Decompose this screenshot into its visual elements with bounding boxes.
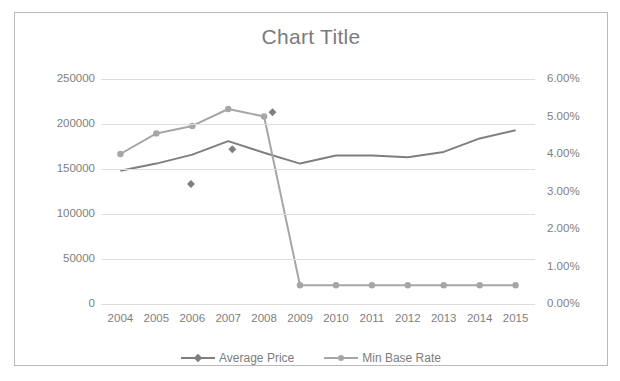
gridline — [101, 79, 535, 80]
x-axis-tick: 2014 — [460, 313, 500, 325]
x-axis-tick: 2009 — [280, 313, 320, 325]
gridline — [101, 259, 535, 260]
y-axis-left-tick: 250000 — [57, 73, 95, 85]
data-point-marker — [405, 282, 411, 288]
y-axis-right-tick: 1.00% — [547, 261, 580, 273]
x-axis-tick: 2013 — [424, 313, 464, 325]
y-axis-left: 050000100000150000200000250000 — [29, 69, 95, 314]
data-point-marker — [261, 113, 267, 119]
x-axis-tick: 2012 — [388, 313, 428, 325]
data-point-marker — [187, 180, 195, 188]
x-axis-tick: 2011 — [352, 313, 392, 325]
data-point-marker — [228, 145, 236, 153]
y-axis-left-tick: 0 — [89, 298, 95, 310]
y-axis-right: 0.00%1.00%2.00%3.00%4.00%5.00%6.00% — [541, 69, 611, 314]
x-axis-tick: 2007 — [208, 313, 248, 325]
x-axis: 2004200520062007200820092010201120122013… — [101, 313, 535, 333]
data-point-marker — [117, 151, 123, 157]
data-point-marker — [512, 282, 518, 288]
y-axis-right-tick: 3.00% — [547, 186, 580, 198]
data-point-marker — [477, 282, 483, 288]
y-axis-left-tick: 100000 — [57, 208, 95, 220]
chart-title[interactable]: Chart Title — [15, 25, 607, 49]
y-axis-left-tick: 200000 — [57, 118, 95, 130]
data-point-marker — [297, 282, 303, 288]
y-axis-left-tick: 150000 — [57, 163, 95, 175]
legend-label: Average Price — [219, 351, 294, 365]
chart-plot-svg — [101, 79, 535, 304]
y-axis-right-tick: 0.00% — [547, 298, 580, 310]
legend-marker — [338, 355, 344, 361]
chart-legend[interactable]: Average PriceMin Base Rate — [15, 351, 607, 365]
plot-area[interactable] — [101, 79, 535, 304]
data-point-marker — [441, 282, 447, 288]
y-axis-right-tick: 4.00% — [547, 148, 580, 160]
legend-diamond-marker-icon — [181, 353, 215, 363]
legend-item-min-base-rate[interactable]: Min Base Rate — [324, 351, 441, 365]
x-axis-tick: 2008 — [244, 313, 284, 325]
x-axis-tick: 2006 — [172, 313, 212, 325]
y-axis-right-tick: 5.00% — [547, 111, 580, 123]
y-axis-right-tick: 2.00% — [547, 223, 580, 235]
legend-item-average-price[interactable]: Average Price — [181, 351, 294, 365]
x-axis-tick: 2015 — [496, 313, 536, 325]
data-point-marker — [269, 108, 277, 116]
data-point-marker — [153, 130, 159, 136]
data-point-marker — [333, 282, 339, 288]
gridline — [101, 169, 535, 170]
series-line-average-price — [120, 130, 515, 171]
legend-label: Min Base Rate — [362, 351, 441, 365]
data-point-marker — [369, 282, 375, 288]
gridline — [101, 214, 535, 215]
gridline — [101, 124, 535, 125]
x-axis-tick: 2004 — [100, 313, 140, 325]
chart-container[interactable]: Chart Title 0500001000001500002000002500… — [14, 12, 608, 366]
legend-marker — [194, 354, 202, 362]
x-axis-tick: 2005 — [136, 313, 176, 325]
data-point-marker — [225, 106, 231, 112]
y-axis-right-tick: 6.00% — [547, 73, 580, 85]
x-axis-tick: 2010 — [316, 313, 356, 325]
y-axis-left-tick: 50000 — [63, 253, 95, 265]
legend-circle-marker-icon — [324, 353, 358, 363]
gridline — [101, 304, 535, 305]
